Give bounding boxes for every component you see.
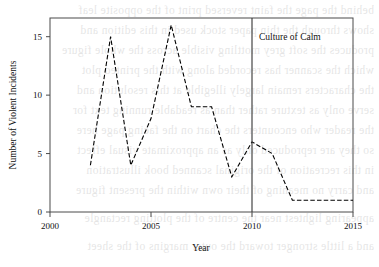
culture-of-calm-annotation: Culture of Calm — [259, 32, 321, 42]
x-tick-label: 2010 — [243, 221, 262, 231]
x-tick-label: 2000 — [41, 221, 60, 231]
x-tick-label: 2015 — [344, 221, 363, 231]
y-axis-ticks: 051015 — [33, 32, 50, 217]
y-tick-label: 15 — [33, 32, 43, 42]
y-tick-label: 0 — [38, 207, 43, 217]
x-axis-ticks: 2000200520102015 — [41, 212, 363, 231]
y-axis-title: Number of Violent Incidents — [8, 60, 18, 169]
plot-frame — [50, 18, 353, 212]
line-chart: 051015 2000200520102015 Culture of Calm … — [0, 0, 379, 267]
y-tick-label: 5 — [38, 149, 43, 159]
x-tick-label: 2005 — [142, 221, 161, 231]
figure-container: behind the page the faint reversed print… — [0, 0, 379, 267]
data-series-line — [90, 25, 353, 200]
y-tick-label: 10 — [33, 90, 43, 100]
x-axis-title: Year — [192, 243, 210, 253]
